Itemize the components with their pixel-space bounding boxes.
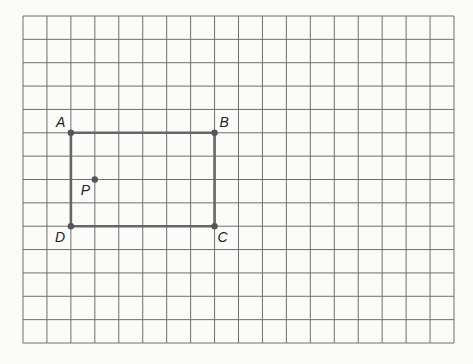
- point-a: [68, 130, 74, 136]
- label-p: P: [81, 182, 91, 198]
- label-b: B: [220, 114, 229, 130]
- point-p: [92, 176, 98, 182]
- grid-figure: ABCDP: [0, 0, 473, 364]
- point-b: [211, 130, 217, 136]
- label-d: D: [55, 229, 65, 245]
- label-a: A: [55, 114, 65, 130]
- label-c: C: [218, 229, 229, 245]
- grid-diagram: ABCDP: [0, 0, 473, 364]
- point-d: [68, 223, 74, 229]
